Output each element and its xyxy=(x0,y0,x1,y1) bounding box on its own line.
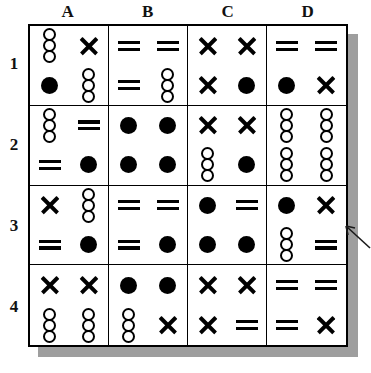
filled-circle-icon xyxy=(80,156,97,173)
filled-circle-icon xyxy=(120,277,137,294)
cell-slot-2 xyxy=(307,26,347,65)
three-open-circles-icon xyxy=(43,28,56,63)
grid-cell-c3[interactable] xyxy=(188,186,267,266)
three-open-circles-icon xyxy=(161,68,174,103)
x-mark-icon xyxy=(237,36,256,55)
grid-cell-c1[interactable] xyxy=(188,26,267,106)
x-mark-icon xyxy=(40,196,59,215)
grid-cell-c4[interactable] xyxy=(188,265,267,345)
cell-slot-1 xyxy=(109,265,148,305)
x-mark-icon xyxy=(317,316,336,335)
x-mark-icon xyxy=(198,116,217,135)
open-circle-icon xyxy=(43,330,56,343)
open-circle-icon xyxy=(280,169,293,182)
grid-cell-a4[interactable] xyxy=(30,265,109,345)
grid-cell-b2[interactable] xyxy=(109,106,188,186)
cell-slot-1 xyxy=(267,106,307,145)
symbol-grid xyxy=(28,24,348,347)
open-circle-icon xyxy=(280,130,293,143)
filled-circle-icon xyxy=(278,77,295,94)
filled-circle-icon xyxy=(238,77,255,94)
equals-sign-icon xyxy=(118,80,140,91)
cell-slot-2 xyxy=(69,106,108,145)
cell-slot-2 xyxy=(307,106,347,145)
cell-slot-3 xyxy=(30,65,69,104)
cell-slot-4 xyxy=(227,65,266,104)
cell-slot-3 xyxy=(267,305,307,345)
cell-slot-1 xyxy=(267,186,307,225)
equals-sign-icon xyxy=(276,40,298,51)
equals-sign-icon xyxy=(315,280,337,291)
grid-cell-b4[interactable] xyxy=(109,265,188,345)
row-header-4: 4 xyxy=(0,266,28,347)
cell-slot-1 xyxy=(109,186,148,225)
cell-slot-2 xyxy=(148,186,187,225)
cell-slot-3 xyxy=(109,225,148,264)
column-header-a: A xyxy=(28,0,108,24)
filled-circle-icon xyxy=(80,236,97,253)
cell-slot-4 xyxy=(307,65,347,104)
cell-slot-2 xyxy=(148,106,187,145)
grid-cell-a3[interactable] xyxy=(30,186,109,266)
filled-circle-icon xyxy=(238,156,255,173)
cell-slot-2 xyxy=(69,26,108,65)
equals-sign-icon xyxy=(157,200,179,211)
cell-slot-4 xyxy=(307,305,347,345)
cell-slot-4 xyxy=(307,145,347,184)
filled-circle-icon xyxy=(120,156,137,173)
x-mark-icon xyxy=(237,276,256,295)
grid-cell-d4[interactable] xyxy=(267,265,346,345)
equals-sign-icon xyxy=(315,40,337,51)
x-mark-icon xyxy=(317,196,336,215)
cell-slot-1 xyxy=(188,186,227,225)
grid-cell-c2[interactable] xyxy=(188,106,267,186)
grid-cell-b1[interactable] xyxy=(109,26,188,106)
cell-slot-3 xyxy=(30,145,69,184)
cell-slot-1 xyxy=(188,26,227,65)
x-mark-icon xyxy=(198,276,217,295)
filled-circle-icon xyxy=(238,236,255,253)
cell-slot-2 xyxy=(148,26,187,65)
cell-slot-4 xyxy=(227,305,266,345)
cell-slot-1 xyxy=(30,265,69,305)
open-circle-icon xyxy=(82,330,95,343)
cell-slot-4 xyxy=(69,65,108,104)
row-header-3: 3 xyxy=(0,186,28,267)
grid-cell-a1[interactable] xyxy=(30,26,109,106)
equals-sign-icon xyxy=(78,120,100,131)
cell-slot-3 xyxy=(109,145,148,184)
three-open-circles-icon xyxy=(82,68,95,103)
three-open-circles-icon xyxy=(280,147,293,182)
cell-slot-2 xyxy=(307,186,347,225)
x-mark-icon xyxy=(79,276,98,295)
puzzle-container: ABCD 1234 xyxy=(0,0,371,373)
cell-slot-4 xyxy=(148,225,187,264)
grid-cell-d3[interactable] xyxy=(267,186,346,266)
grid-cell-b3[interactable] xyxy=(109,186,188,266)
grid-cell-d2[interactable] xyxy=(267,106,346,186)
open-circle-icon xyxy=(320,169,333,182)
equals-sign-icon xyxy=(276,320,298,331)
x-mark-icon xyxy=(237,116,256,135)
three-open-circles-icon xyxy=(43,308,56,343)
cell-slot-3 xyxy=(188,65,227,104)
filled-circle-icon xyxy=(159,156,176,173)
open-circle-icon xyxy=(82,90,95,103)
filled-circle-icon xyxy=(159,277,176,294)
cell-slot-1 xyxy=(109,106,148,145)
three-open-circles-icon xyxy=(82,308,95,343)
cell-slot-1 xyxy=(109,26,148,65)
equals-sign-icon xyxy=(39,159,61,170)
equals-sign-icon xyxy=(236,200,258,211)
filled-circle-icon xyxy=(159,236,176,253)
cell-slot-4 xyxy=(69,225,108,264)
cell-slot-3 xyxy=(30,225,69,264)
three-open-circles-icon xyxy=(201,147,214,182)
grid-cell-a2[interactable] xyxy=(30,106,109,186)
filled-circle-icon xyxy=(278,197,295,214)
grid-cell-d1[interactable] xyxy=(267,26,346,106)
three-open-circles-icon xyxy=(82,188,95,223)
cell-slot-1 xyxy=(267,26,307,65)
cell-slot-2 xyxy=(307,265,347,305)
cell-slot-1 xyxy=(30,186,69,225)
